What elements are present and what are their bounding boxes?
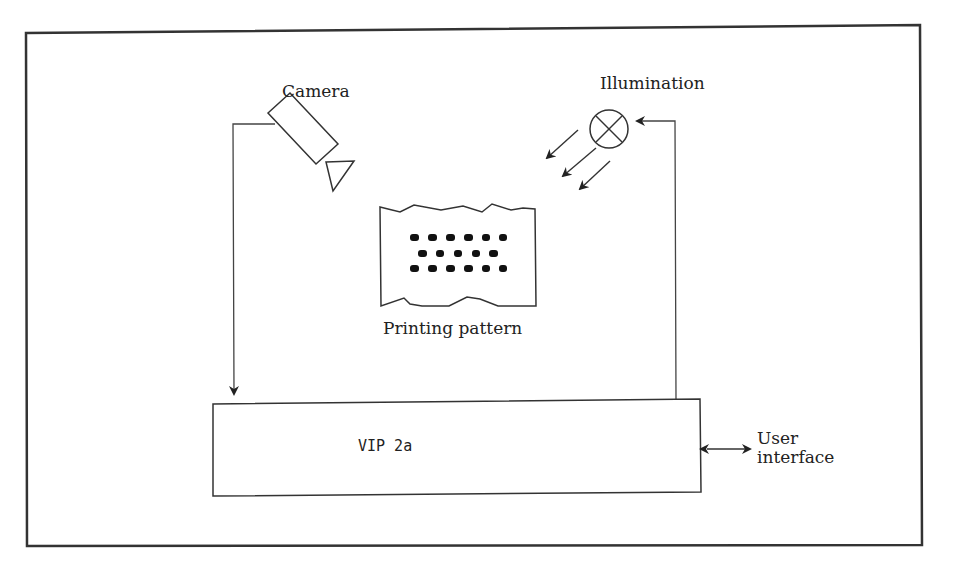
camera-to-processor-connector	[233, 124, 275, 394]
printing-pattern-sheet	[380, 204, 536, 306]
user-interface-label-line1: User	[757, 428, 799, 448]
illumination-label: Illumination	[600, 73, 705, 93]
user-interface-label-line2: interface	[757, 447, 834, 467]
camera-icon	[268, 93, 354, 191]
vision-system-diagram: Camera Illumination	[0, 0, 957, 564]
printing-pattern-label: Printing pattern	[383, 318, 522, 338]
processor-to-illumination-connector	[637, 121, 676, 399]
camera-label: Camera	[282, 81, 350, 101]
processor-label: VIP 2a	[358, 437, 412, 455]
lamp-icon	[590, 110, 628, 148]
processor-box	[213, 399, 701, 496]
